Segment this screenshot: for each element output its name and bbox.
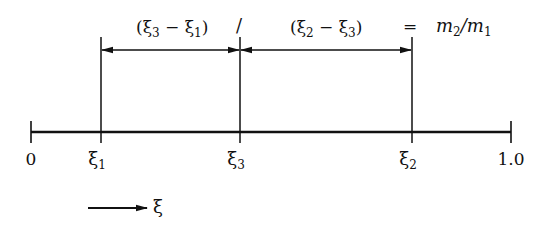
direction-label-xi: ξ: [153, 196, 163, 217]
tick-label-xi1: ξ1: [88, 148, 106, 172]
label-mass-ratio: m2/m1: [436, 15, 492, 39]
label-xi3-minus-xi1: (ξ3 − ξ1): [136, 17, 208, 40]
divide-sign: /: [236, 15, 243, 36]
label-xi2-minus-xi3: (ξ2 − ξ3): [290, 17, 362, 40]
tick-label-zero: 0: [26, 149, 37, 169]
tick-label-xi2: ξ2: [399, 148, 417, 172]
tick-label-xi3: ξ3: [227, 148, 245, 172]
lever-rule-diagram: (ξ3 − ξ1) / (ξ2 − ξ3) = m2/m1 0 ξ1 ξ3 ξ2…: [0, 0, 543, 229]
tick-label-one: 1.0: [497, 149, 524, 169]
equals-sign: =: [403, 16, 417, 36]
